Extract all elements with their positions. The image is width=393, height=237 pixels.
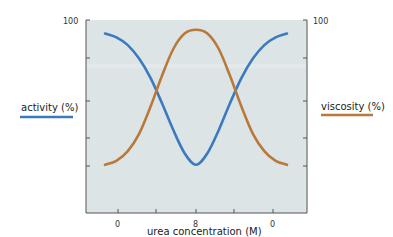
x-tick-label-end: 0 bbox=[270, 220, 275, 229]
chart: 100 100 0 8 0 urea concentration (M) act… bbox=[0, 0, 393, 237]
plot-band bbox=[86, 64, 307, 68]
x-tick-label-start: 0 bbox=[115, 220, 120, 229]
right-axis-top-label: 100 bbox=[313, 17, 328, 26]
plot-area bbox=[86, 20, 307, 213]
activity-legend-label: activity (%) bbox=[21, 102, 78, 113]
viscosity-legend-label: viscosity (%) bbox=[321, 101, 385, 112]
x-axis-title: urea concentration (M) bbox=[147, 226, 262, 237]
left-axis-top-label: 100 bbox=[63, 17, 78, 26]
